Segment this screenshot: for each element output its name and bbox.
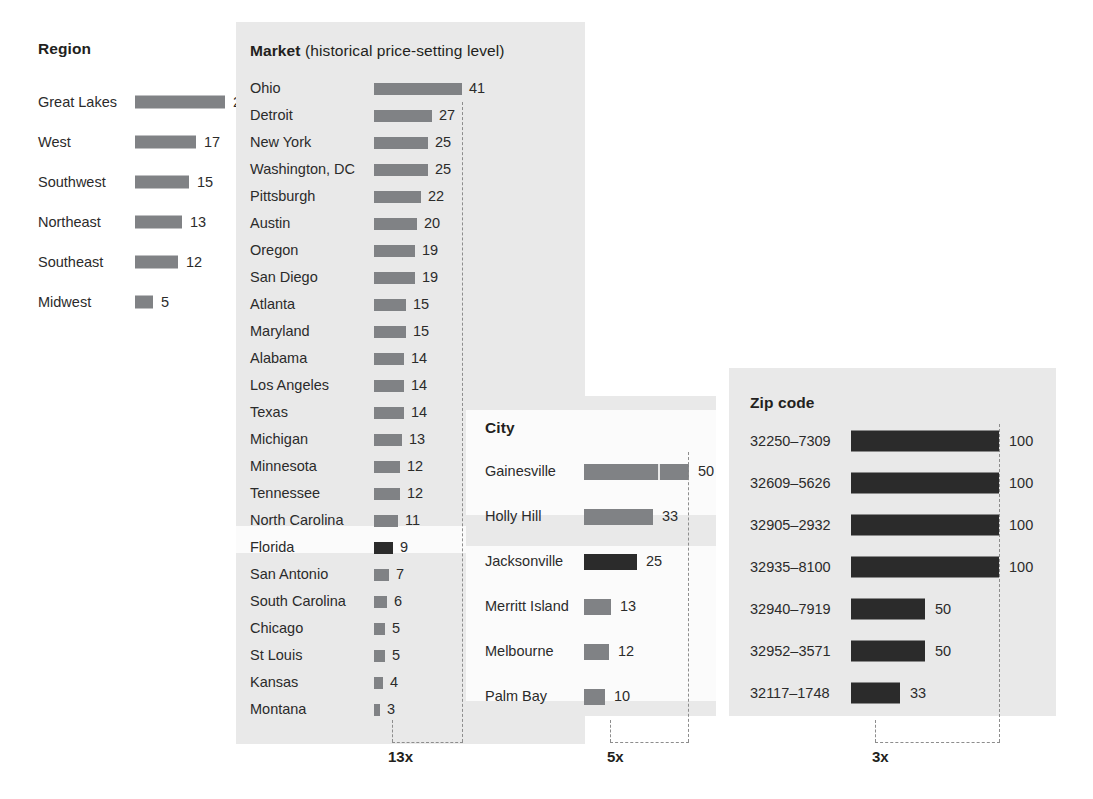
bar-row: Melbourne12	[466, 629, 716, 674]
bar-value: 12	[618, 629, 634, 674]
bar	[374, 434, 402, 446]
bar-row: Los Angeles14	[236, 372, 585, 399]
bar	[584, 599, 611, 615]
bar-row-label: Gainesville	[485, 449, 556, 494]
bar-value: 50	[698, 449, 714, 494]
city-bracket-max-line	[688, 452, 689, 742]
bar-row: 32250–7309100	[729, 420, 1056, 462]
bar-row: New York25	[236, 129, 585, 156]
city-bracket-min-line	[610, 720, 611, 742]
bar	[851, 683, 900, 704]
bar-value: 11	[405, 507, 420, 534]
bar-value: 5	[161, 282, 169, 322]
bar-row: Pittsburgh22	[236, 183, 585, 210]
bar-value: 25	[435, 156, 451, 183]
bar-row: Palm Bay10	[466, 674, 716, 719]
bar	[584, 644, 609, 660]
bar-row-label: 32905–2932	[750, 504, 831, 546]
bar-row-label: 32117–1748	[750, 672, 830, 714]
bar-value: 100	[1009, 546, 1033, 588]
bar-row-label: Michigan	[250, 426, 308, 453]
bar-value: 33	[662, 494, 678, 539]
bar-row-label: New York	[250, 129, 311, 156]
bar	[374, 704, 380, 716]
panel-region: Region Great Lakes25West17Southwest15Nor…	[30, 32, 235, 292]
bar	[374, 380, 404, 392]
bar-value: 3	[387, 696, 395, 723]
bar-row-label: Melbourne	[485, 629, 554, 674]
bar-row-label: Chicago	[250, 615, 303, 642]
bar-row-label: Midwest	[38, 282, 91, 322]
bar-row: 32609–5626100	[729, 462, 1056, 504]
bar-value: 13	[620, 584, 636, 629]
bar-row: 32935–8100100	[729, 546, 1056, 588]
bar-row: 32117–174833	[729, 672, 1056, 714]
bar-value: 4	[390, 669, 398, 696]
bar	[374, 569, 389, 581]
bar-row-label: Oregon	[250, 237, 298, 264]
bar-row-label: San Diego	[250, 264, 318, 291]
bar-value: 15	[413, 318, 429, 345]
bar-row: Midwest5	[30, 282, 235, 322]
bar-value: 25	[646, 539, 662, 584]
bar-row-label: Texas	[250, 399, 288, 426]
bar-row-label: 32952–3571	[750, 630, 831, 672]
panel-market-title-suffix: (historical price-setting level)	[305, 42, 505, 59]
panel-zip-content: Zip code 32250–730910032609–562610032905…	[729, 368, 1056, 716]
bar-row-label: Merritt Island	[485, 584, 569, 629]
bar-row: Oregon19	[236, 237, 585, 264]
bar	[374, 191, 421, 203]
market-bracket-base-line	[392, 742, 463, 743]
bar-value: 6	[394, 588, 402, 615]
market-multiplier-label: 13x	[388, 748, 413, 765]
bar-row-label: 32250–7309	[750, 420, 831, 462]
bar-row: Gainesville50	[466, 449, 716, 494]
bar	[135, 176, 189, 189]
bar-row: Merritt Island13	[466, 584, 716, 629]
bar-row-label: Florida	[250, 534, 294, 561]
bar-value: 50	[935, 588, 951, 630]
bar-row-label: 32940–7919	[750, 588, 831, 630]
bar-row: 32952–357150	[729, 630, 1056, 672]
bar-row-label: 32935–8100	[750, 546, 831, 588]
bar-value: 10	[614, 674, 630, 719]
bar-value: 14	[411, 372, 427, 399]
bar	[374, 83, 462, 95]
bar-row: Alabama14	[236, 345, 585, 372]
bar-row-label: St Louis	[250, 642, 302, 669]
bar	[584, 689, 605, 705]
bar	[374, 299, 406, 311]
panel-market-title: Market (historical price-setting level)	[250, 42, 505, 60]
bar-row-label: Washington, DC	[250, 156, 355, 183]
zip-bracket-max-line	[999, 424, 1000, 742]
bar-value: 7	[396, 561, 404, 588]
bar	[374, 218, 417, 230]
bar-value: 33	[910, 672, 926, 714]
bar	[374, 407, 404, 419]
bar	[374, 272, 415, 284]
bar-row-label: Holly Hill	[485, 494, 541, 539]
bar-row: Holly Hill33	[466, 494, 716, 539]
bar-value: 22	[428, 183, 444, 210]
bar-row-label: Jacksonville	[485, 539, 563, 584]
bar	[584, 554, 637, 570]
market-bracket-min-line	[392, 720, 393, 742]
bar	[584, 509, 653, 525]
bar-row: Atlanta15	[236, 291, 585, 318]
panel-zip-title-text: Zip code	[750, 394, 815, 411]
bar-row: Ohio41	[236, 75, 585, 102]
bar-row-label: Kansas	[250, 669, 298, 696]
bar-row: Northeast13	[30, 202, 235, 242]
panel-region-title-text: Region	[38, 40, 91, 57]
bar	[374, 596, 387, 608]
bar	[374, 353, 404, 365]
chart-canvas: Region Great Lakes25West17Southwest15Nor…	[0, 0, 1093, 799]
bar-row: Detroit27	[236, 102, 585, 129]
panel-market-title-text: Market	[250, 42, 301, 59]
bar-value: 100	[1009, 420, 1033, 462]
bar-value: 100	[1009, 504, 1033, 546]
bar-row-label: Great Lakes	[38, 82, 117, 122]
bar-value: 27	[439, 102, 455, 129]
bar-row-label: Alabama	[250, 345, 307, 372]
bar	[851, 557, 999, 578]
